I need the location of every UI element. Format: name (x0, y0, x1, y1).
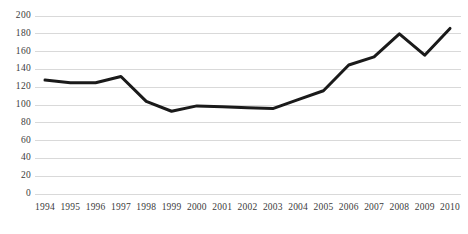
x-tick-label: 2008 (389, 203, 409, 213)
x-tick-label: 2002 (238, 203, 258, 213)
x-tick-label: 1998 (136, 203, 156, 213)
x-tick-label: 2003 (263, 203, 283, 213)
x-tick-label: 1997 (111, 203, 131, 213)
x-tick-label: 2006 (339, 203, 359, 213)
x-tick-label: 1996 (86, 203, 106, 213)
x-tick-label: 2004 (288, 203, 308, 213)
x-tick-label: 2000 (187, 203, 207, 213)
x-tick-label: 2009 (415, 203, 435, 213)
x-tick-label: 2005 (314, 203, 334, 213)
x-tick-label: 1994 (35, 203, 55, 213)
x-axis: 1994199519961997199819992000200120022003… (0, 0, 468, 234)
x-tick-label: 1995 (60, 203, 80, 213)
line-chart: 020406080100120140160180200 199419951996… (0, 0, 468, 234)
x-tick-label: 2001 (212, 203, 232, 213)
x-tick-label: 2010 (440, 203, 460, 213)
x-tick-label: 1999 (162, 203, 182, 213)
x-tick-label: 2007 (364, 203, 384, 213)
